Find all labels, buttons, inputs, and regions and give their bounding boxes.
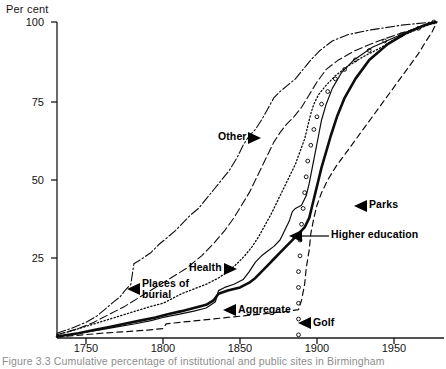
figure-caption: Figure 3.3 Cumulative percentage of inst… xyxy=(2,355,446,367)
parks-pointer-icon xyxy=(354,200,367,212)
axis-lines xyxy=(57,22,444,338)
x-axis-ticks xyxy=(86,338,394,344)
series-label-other: Other xyxy=(218,131,247,142)
chart-plot-area xyxy=(0,0,446,369)
series-label-places-of-burial: Places of burial xyxy=(142,278,189,300)
aggregate-pointer-icon xyxy=(223,304,236,316)
series-label-aggregate: Aggregate xyxy=(238,304,291,315)
series-label-parks: Parks xyxy=(369,199,398,210)
figure-container: Per cent 100 75 50 25 1750 1800 1850 190… xyxy=(0,0,446,369)
series-other xyxy=(57,22,432,333)
series-aggregate xyxy=(57,22,435,336)
series-label-higher-education: Higher education xyxy=(331,229,418,240)
series-parks xyxy=(57,22,437,337)
series-places-of-burial xyxy=(57,22,435,335)
other-pointer-icon xyxy=(248,132,261,144)
series-label-golf: Golf xyxy=(313,317,334,328)
series-health xyxy=(57,22,437,335)
y-axis-ticks xyxy=(51,22,57,258)
series-higher-education xyxy=(57,22,432,336)
series-golf xyxy=(297,20,436,337)
series-layer xyxy=(57,20,437,337)
places-of-burial-line-2: burial xyxy=(142,288,171,300)
series-label-health: Health xyxy=(189,262,222,273)
places-of-burial-pointer-icon xyxy=(127,283,140,295)
